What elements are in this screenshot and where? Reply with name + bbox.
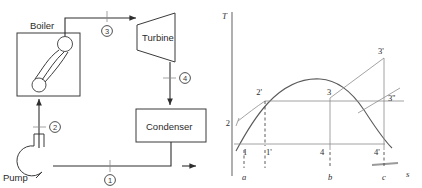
point-label-3prime: 3' <box>378 46 384 56</box>
figure-svg: Boiler Turbine Condenser <box>0 0 422 188</box>
figure-root: Boiler Turbine Condenser <box>0 0 422 188</box>
turbine-component: Turbine <box>137 13 175 62</box>
boiler-tube-left-icon <box>35 50 59 79</box>
x-tick-label-a: a <box>242 172 246 182</box>
y-axis-label: T <box>222 11 228 21</box>
state-marker-1: 1 <box>105 160 116 185</box>
x-axis-stub <box>372 163 398 165</box>
state-marker-3: 3 <box>102 11 113 36</box>
line-3-to-3prime <box>330 58 384 98</box>
point-label-1prime: 1' <box>266 147 272 157</box>
x-tick-label-b: b <box>328 172 332 182</box>
point-label-3doubleprime: 3'' <box>388 93 396 103</box>
state-3-label: 3 <box>105 27 109 36</box>
pipe-condenser-to-pump <box>53 142 171 166</box>
point-label-2prime: 2' <box>256 87 262 97</box>
boiler-tube-right-icon <box>45 52 68 82</box>
condenser-component: Condenser <box>136 109 206 142</box>
pump-label: Pump <box>3 172 28 183</box>
boiler-lower-drum-icon <box>32 78 46 92</box>
ts-diagram-panel: T s <box>222 11 414 182</box>
point-label-2: 2 <box>226 118 230 128</box>
state-2-label: 2 <box>53 123 57 132</box>
state-1-label: 1 <box>108 176 112 185</box>
turbine-label: Turbine <box>142 32 174 43</box>
plot-point-labels: 2 2' 1 1' 3 3' 3'' 4 4' <box>226 46 396 157</box>
x-tick-label-c: c <box>382 172 386 182</box>
x-axis-label: s <box>406 169 410 179</box>
boiler-tube-mid-icon <box>42 52 64 80</box>
point-label-4: 4 <box>320 147 325 157</box>
boiler-component: Boiler <box>17 20 80 96</box>
x-tick-labels: a b c <box>242 172 386 182</box>
point-label-3: 3 <box>327 87 331 97</box>
point-label-1: 1 <box>243 147 247 157</box>
schematic-panel: Boiler Turbine Condenser <box>3 11 206 185</box>
state-marker-2: 2 <box>33 122 60 133</box>
boiler-upper-drum-icon <box>58 37 73 52</box>
pump-component: Pump <box>3 134 44 183</box>
state-2-tick-mark <box>236 118 239 126</box>
condenser-label: Condenser <box>146 121 192 132</box>
point-label-4prime: 4' <box>374 147 380 157</box>
boiler-label: Boiler <box>30 20 54 31</box>
state-4-label: 4 <box>183 74 187 83</box>
state-marker-4: 4 <box>163 73 190 84</box>
